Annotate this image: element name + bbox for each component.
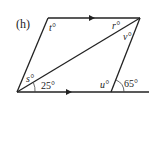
angle-v-label: v° bbox=[123, 31, 131, 42]
angle-u-label: u° bbox=[100, 79, 109, 90]
angle-s-label: s° bbox=[26, 73, 34, 84]
angle-25-label: 25° bbox=[41, 80, 55, 91]
angle-t-label: t° bbox=[49, 22, 56, 33]
parallel-arrow-top-icon bbox=[89, 15, 95, 21]
diagonal bbox=[17, 18, 140, 92]
geometry-diagram: (h) t° r° v° s° 25° u° 65° bbox=[0, 0, 159, 151]
angle-65-label: 65° bbox=[124, 78, 138, 89]
angle-r-label: r° bbox=[112, 20, 120, 31]
arc-25-icon bbox=[34, 83, 36, 92]
part-label: (h) bbox=[16, 17, 30, 31]
parallel-arrow-bottom-icon bbox=[66, 89, 72, 95]
arc-65-icon bbox=[116, 80, 124, 92]
